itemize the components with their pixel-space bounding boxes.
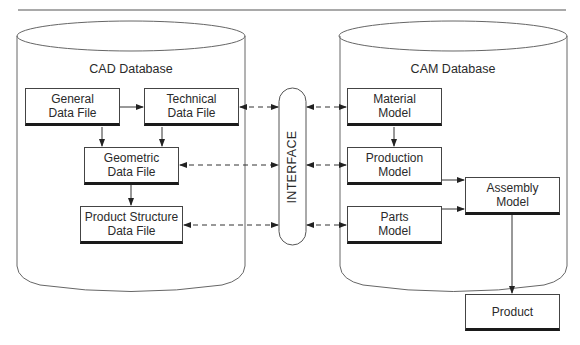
production-model-box: ProductionModel — [347, 147, 442, 185]
box-label-line2: Model — [366, 165, 423, 179]
cam-database-title: CAM Database — [402, 62, 504, 76]
box-label-line1: General — [48, 92, 96, 106]
box-label-line1: Material — [373, 92, 416, 106]
box-label-line1: Technical — [166, 92, 216, 106]
interface-label: INTERFACE — [286, 130, 300, 203]
assembly-model-box: AssemblyModel — [465, 177, 560, 215]
box-label-line2: Model — [486, 195, 538, 209]
box-label-line2: Data File — [48, 106, 96, 120]
general-data-file-box: GeneralData File — [25, 88, 120, 126]
box-label-line2: Model — [373, 106, 416, 120]
cad-database-title: CAD Database — [80, 62, 182, 76]
box-label-line1: Assembly — [486, 181, 538, 195]
geometric-data-file-box: GeometricData File — [84, 147, 179, 185]
box-label-line2: Data File — [166, 106, 216, 120]
interface-label-wrap: INTERFACE — [279, 88, 306, 245]
box-label-line2: Data File — [104, 165, 159, 179]
product-structure-data-file-box: Product StructureData File — [80, 206, 183, 244]
box-label-line2: Data File — [85, 224, 178, 238]
box-label-line1: Parts — [378, 210, 411, 224]
box-label-line1: Geometric — [104, 151, 159, 165]
product-label: Product — [492, 305, 533, 319]
box-label-line1: Product Structure — [85, 210, 178, 224]
product-box: Product — [465, 294, 560, 331]
box-label-line2: Model — [378, 224, 411, 238]
technical-data-file-box: TechnicalData File — [144, 88, 239, 126]
box-label-line1: Production — [366, 151, 423, 165]
parts-model-box: PartsModel — [347, 206, 442, 244]
material-model-box: MaterialModel — [347, 88, 442, 126]
